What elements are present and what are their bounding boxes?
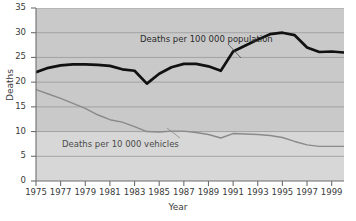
x-axis-title: Year [143,202,213,212]
y-tick-label: 35 [2,3,26,12]
gridlines [36,8,344,156]
series-deaths-per-10000-vehicles [36,90,344,147]
y-tick-label: 30 [2,28,26,37]
y-tick-label: 5 [2,151,26,160]
x-tick-label: 1999 [317,188,347,197]
y-tick-label: 10 [2,127,26,136]
x-axis-ticks [36,181,332,186]
annotation-gray-series: Deaths per 10 000 vehicles [62,139,179,149]
plot-area: Deaths per 100 000 population Deaths per… [36,8,344,181]
y-tick-label: 0 [2,176,26,185]
y-axis-title: Deaths [5,55,15,115]
line-chart: Deaths per 100 000 population Deaths per… [0,0,356,221]
annotation-black-series: Deaths per 100 000 population [140,34,273,44]
leader-line-gray-annotation [167,128,180,138]
